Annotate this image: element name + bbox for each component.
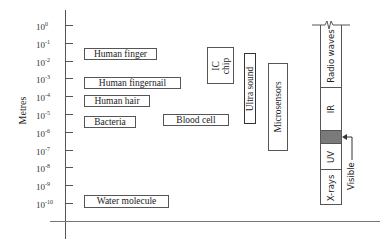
tick-label: 10-5	[36, 108, 64, 121]
radio-waves-label: Radio waves	[326, 29, 336, 82]
tick-label: 10-4	[36, 90, 64, 103]
human-finger-box: Human finger	[84, 48, 157, 60]
ultra-sound-box: Ultra sound	[244, 53, 256, 124]
tick-label: 10-6	[36, 126, 64, 139]
em-spectrum-column: Radio waves IR UV X-rays	[320, 25, 342, 205]
human-hair-box: Human hair	[84, 95, 150, 107]
tick-7	[66, 150, 73, 151]
microsensors-box: Microsensors	[268, 63, 288, 151]
tick-label: 10-7	[36, 144, 64, 157]
ic-chip-line1: IC	[211, 57, 221, 73]
tick-label: 10-3	[36, 72, 64, 85]
tick-10	[66, 203, 73, 204]
tick-label: 10-10	[36, 197, 64, 210]
blood-cell-box: Blood cell	[163, 114, 229, 126]
tick-label: 10-1	[36, 37, 64, 50]
tick-8	[66, 167, 73, 168]
x-rays-label: X-rays	[326, 174, 336, 201]
ic-chip-label: IC chip	[211, 57, 231, 73]
y-axis-label: Metres	[17, 91, 28, 131]
band-uv: UV	[321, 143, 341, 169]
x-axis-line	[50, 221, 380, 222]
uv-label: UV	[326, 150, 336, 162]
tick-0	[66, 25, 73, 26]
visible-label: Visible	[346, 162, 356, 190]
tick-label: 100	[36, 19, 64, 32]
band-ir: IR	[321, 87, 341, 130]
tick-6	[66, 132, 73, 133]
tick-3	[66, 78, 73, 79]
human-fingernail-box: Human fingernail	[84, 77, 181, 89]
water-molecule-box: Water molecule	[84, 195, 169, 208]
tick-label: 10-2	[36, 55, 64, 68]
ic-chip-line2: chip	[221, 57, 231, 73]
band-x-rays: X-rays	[321, 169, 341, 205]
ic-chip-box: IC chip	[207, 47, 234, 84]
ultra-sound-label: Ultra sound	[245, 66, 255, 111]
microsensors-label: Microsensors	[273, 81, 283, 132]
band-radio-waves: Radio waves	[321, 25, 341, 87]
tick-2	[66, 61, 73, 62]
tick-1	[66, 43, 73, 44]
visible-arrow-icon	[341, 130, 355, 160]
tick-4	[66, 96, 73, 97]
tick-label: 10-8	[36, 161, 64, 174]
ir-label: IR	[326, 105, 336, 113]
tick-label: 10-9	[36, 179, 64, 192]
bacteria-box: Bacteria	[84, 116, 136, 128]
y-axis-line	[65, 10, 66, 239]
band-visible	[321, 130, 341, 143]
tick-5	[66, 114, 73, 115]
tick-9	[66, 185, 73, 186]
